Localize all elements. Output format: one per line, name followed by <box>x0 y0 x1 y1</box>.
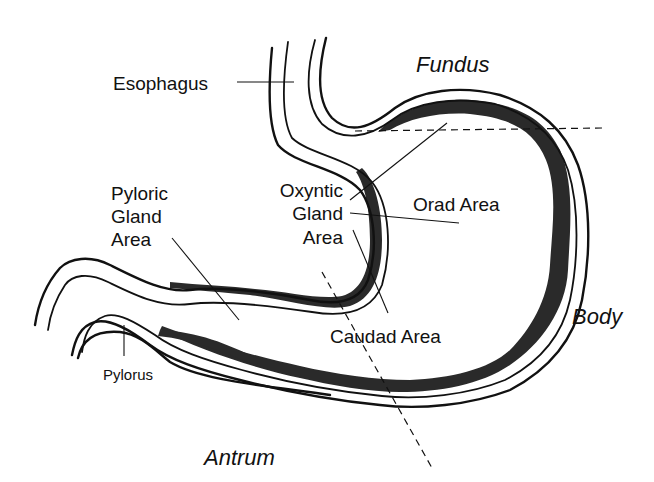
stomach-diagram: Esophagus Fundus Orad Area Body Caudad A… <box>0 0 654 482</box>
oxyntic-gland-area-label: Oxyntic Gland Area <box>280 180 344 248</box>
fundus-label: Fundus <box>416 52 489 77</box>
pyloric-gland-line-3: Area <box>111 229 152 250</box>
pyloric-gland-area-label: Pyloric Gland Area <box>111 183 168 250</box>
esophagus-label: Esophagus <box>113 73 208 94</box>
body-label: Body <box>572 304 624 329</box>
caudad-area-label: Caudad Area <box>330 326 441 347</box>
orad-area-label: Orad Area <box>413 194 500 215</box>
pyloric-gland-line-1: Pyloric <box>111 183 168 204</box>
pyloric-gland-line-2: Gland <box>111 206 162 227</box>
antrum-label: Antrum <box>202 445 275 470</box>
pylorus-label: Pylorus <box>103 366 153 383</box>
oxyntic-gland-line-2: Gland <box>292 203 343 224</box>
oxyntic-gland-line-1: Oxyntic <box>280 180 343 201</box>
oxyntic-gland-line-3: Area <box>303 227 344 248</box>
pyloric-leader <box>172 238 239 320</box>
